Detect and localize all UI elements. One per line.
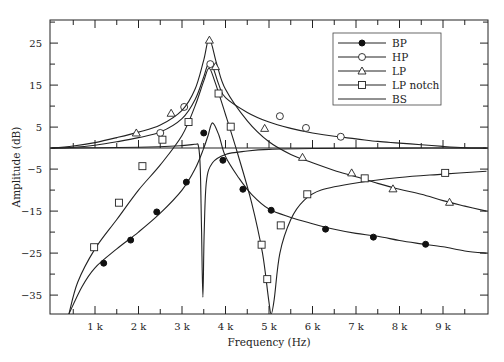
marker-lp-notch [361,175,368,182]
y-tick-label: 5 [36,122,42,133]
marker-hp [337,133,344,140]
marker-lp-notch [442,169,449,176]
marker-lp [261,124,269,131]
marker-lp-notch [277,222,284,229]
marker-bp [240,186,246,192]
legend-marker-hp [359,54,366,61]
marker-hp [207,61,214,68]
legend-label: HP [392,51,408,63]
marker-lp-notch [258,241,265,248]
marker-lp-notch [115,199,122,206]
y-tick-label: −35 [21,290,42,301]
x-tick-label: 7 k [348,321,365,332]
x-axis-title: Frequency (Hz) [227,336,310,348]
y-tick-label: −25 [21,248,42,259]
line-bs [52,144,487,297]
marker-bp [183,179,189,185]
x-tick-label: 8 k [392,321,409,332]
marker-bp [201,130,207,136]
legend-label: BS [392,93,407,105]
marker-hp [302,124,309,131]
x-tick-label: 1 k [87,321,104,332]
marker-lp-notch [159,136,166,143]
legend-label: BP [392,37,407,49]
marker-bp [101,260,107,266]
x-tick-label: 9 k [435,321,452,332]
marker-lp [205,36,213,43]
marker-lp [167,109,175,116]
marker-lp [298,153,306,160]
marker-bp [220,157,226,163]
x-tick-label: 3 k [174,321,191,332]
marker-lp-notch [185,119,192,126]
series-bp [69,123,487,314]
marker-lp-notch [227,123,234,130]
y-tick-label: −15 [21,206,42,217]
legend-marker-lp-notch [359,82,366,89]
x-tick-label: 6 k [305,321,322,332]
marker-bp [370,234,376,240]
legend-marker-bp [359,40,365,46]
marker-lp [348,169,356,176]
legend-label: LP [392,65,406,77]
chart: 1 k2 k3 k4 k5 k6 k7 k8 k9 k25155−5−15−25… [0,0,504,362]
x-tick-label: 2 k [131,321,148,332]
y-tick-label: 15 [29,80,42,91]
series-bs [52,144,487,297]
marker-bp [268,207,274,213]
y-tick-label: −5 [27,164,42,175]
x-tick-label: 4 k [218,321,235,332]
marker-bp [423,241,429,247]
legend-label: LP notch [392,79,440,91]
marker-lp-notch [264,276,271,283]
marker-lp-notch [215,90,222,97]
legend: BPHPLPLP notchBS [333,33,441,105]
marker-hp [157,129,164,136]
y-axis-title: Amplitude (dB) [10,127,22,209]
legend-box [333,33,441,105]
marker-hp [276,113,283,120]
marker-lp-notch [304,191,311,198]
marker-bp [323,226,329,232]
marker-bp [128,237,134,243]
line-bp [69,123,487,314]
x-tick-label: 5 k [261,321,278,332]
marker-bp [154,209,160,215]
y-tick-label: 25 [29,38,42,49]
marker-lp-notch [139,163,146,170]
marker-lp-notch [91,244,98,251]
